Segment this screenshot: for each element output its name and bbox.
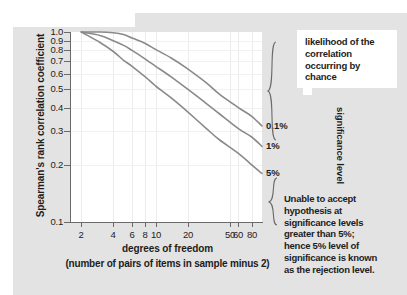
y-tick-mark	[64, 32, 70, 33]
y-tick-mark	[64, 222, 70, 223]
note-line-7: as the	[284, 264, 312, 275]
y-tick-mark	[64, 108, 70, 109]
gridline-horizontal	[71, 89, 262, 90]
y-tick-mark	[64, 50, 70, 51]
gridline-horizontal	[71, 165, 262, 166]
significance-level-brace	[266, 40, 292, 144]
x-tick-label: 2	[69, 229, 93, 240]
gridline-horizontal	[71, 41, 262, 42]
note-rejection-level-bold: rejection level.	[312, 264, 374, 275]
y-axis-label: Spearman's rank correlation coefficient	[35, 26, 46, 226]
significance-level-label: significance level	[335, 91, 346, 201]
note-line-2: hypothesis at	[284, 205, 342, 216]
x-tick-label: 10	[144, 229, 168, 240]
figure-root: 0.10.20.30.40.50.60.70.80.91.0 246810205…	[0, 0, 407, 295]
y-tick-mark	[64, 89, 70, 90]
y-tick-mark	[64, 165, 70, 166]
note-line-4: greater than 5%;	[284, 228, 354, 239]
y-tick-mark	[64, 61, 70, 62]
y-tick-mark	[64, 74, 70, 75]
x-tick-mark	[113, 222, 114, 227]
note-line-3: significance levels	[284, 217, 363, 228]
y-tick-mark	[64, 131, 70, 132]
gridline-horizontal	[71, 131, 262, 132]
y-tick-mark	[64, 41, 70, 42]
gridline-horizontal	[71, 50, 262, 51]
gridline-horizontal	[71, 74, 262, 75]
note-line-5: hence 5% level of	[284, 240, 359, 251]
gridline-horizontal	[71, 108, 262, 109]
rejection-note-text: Unable to accept hypothesis at significa…	[284, 193, 406, 276]
y-axis-line	[70, 32, 71, 223]
x-tick-label: 80	[240, 229, 264, 240]
x-axis-line	[70, 222, 263, 223]
x-tick-mark	[145, 222, 146, 227]
note-line-6: significance is known	[284, 252, 377, 263]
note-line-1: Unable to accept	[284, 193, 356, 204]
x-axis-sublabel: (number of pairs of items in sample minu…	[25, 258, 310, 269]
x-tick-mark	[156, 222, 157, 227]
gridline-horizontal	[71, 61, 262, 62]
callout-tail	[303, 88, 312, 95]
x-tick-mark	[188, 222, 189, 227]
x-tick-mark	[238, 222, 239, 227]
x-tick-mark	[230, 222, 231, 227]
x-tick-label: 20	[176, 229, 200, 240]
x-tick-mark	[81, 222, 82, 227]
x-tick-mark	[252, 222, 253, 227]
callout-box: likelihood of the correlation occurring …	[297, 30, 397, 88]
top-white-margin	[0, 0, 135, 27]
left-white-margin	[0, 0, 13, 295]
x-tick-mark	[132, 222, 133, 227]
x-axis-label: degrees of freedom	[60, 243, 275, 254]
